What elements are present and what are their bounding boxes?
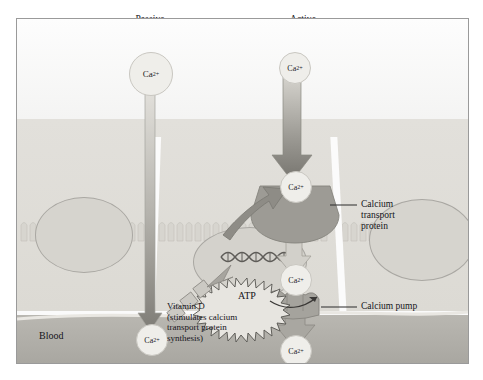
vitamin-d-line-2: (stimulates calcium xyxy=(167,312,277,323)
vitamin-d-line-4: synthesis) xyxy=(167,333,277,344)
blood-label: Blood xyxy=(39,331,99,342)
ca-symbol: Ca xyxy=(288,276,297,285)
ca-charge: 2+ xyxy=(297,277,303,283)
calcium-ion-active-lumen: Ca2+ xyxy=(279,52,311,84)
calcium-ion-blood-right: Ca2+ xyxy=(280,335,312,364)
ca-symbol: Ca xyxy=(143,69,153,79)
calcium-ion-cytosol: Ca2+ xyxy=(280,264,312,296)
calcium-ion-apical: Ca2+ xyxy=(280,171,312,203)
illustration-frame: Ca2+ Ca2+ Ca2+ Ca2+ Ca2+ Ca2+ ATP Vitami… xyxy=(16,18,469,364)
ca-symbol: Ca xyxy=(288,347,297,356)
calcium-ion-blood-left: Ca2+ xyxy=(136,324,168,356)
ca-symbol: Ca xyxy=(144,336,153,345)
ctp-line-1: Calcium xyxy=(361,199,461,210)
calcium-pump-label: Calcium pump xyxy=(361,301,461,312)
ctp-line-3: protein xyxy=(361,221,461,232)
ca-charge: 2+ xyxy=(297,184,303,190)
ca-symbol: Ca xyxy=(287,64,296,73)
vitamin-d-line-3: transport protein xyxy=(167,322,277,333)
ctp-line-2: transport xyxy=(361,210,461,221)
ca-symbol: Ca xyxy=(288,183,297,192)
ca-charge: 2+ xyxy=(153,337,159,343)
vitamin-d-line-1: Vitamin D xyxy=(167,301,277,312)
ca-charge: 2+ xyxy=(296,65,302,71)
vitamin-d-caption: Vitamin D (stimulates calcium transport … xyxy=(167,301,277,343)
ca-charge: 2+ xyxy=(297,348,303,354)
ca-charge: 2+ xyxy=(153,71,159,77)
calcium-absorption-diagram: Passive diffusion Active transport xyxy=(0,0,483,380)
atp-label: ATP xyxy=(225,291,269,302)
calcium-transport-protein-label: Calcium transport protein xyxy=(361,199,461,232)
calcium-ion-passive-lumen: Ca2+ xyxy=(129,52,173,96)
